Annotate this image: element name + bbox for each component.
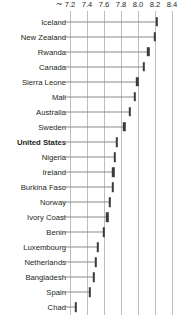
leader-line — [62, 187, 113, 188]
chart-row: Australia — [0, 104, 179, 119]
leader-line — [62, 247, 98, 248]
chart-row: Ivory Coast — [0, 210, 179, 225]
data-marker — [136, 77, 138, 87]
category-label: Burkina Faso — [21, 183, 66, 192]
x-tick-label: 8.0 — [133, 1, 143, 9]
data-marker — [155, 17, 157, 27]
data-marker — [88, 288, 90, 298]
chart-row: Ireland — [0, 165, 179, 180]
plot-area: IcelandNew ZealandRwandaCanadaSierra Leo… — [0, 14, 179, 315]
chart-row: Luxembourg — [0, 240, 179, 255]
data-marker — [109, 197, 111, 207]
category-label: Bangladesh — [25, 273, 66, 282]
chart-row: United States — [0, 134, 179, 149]
category-label: New Zealand — [21, 32, 66, 41]
data-marker — [93, 273, 95, 283]
x-tick-label: 7.8 — [116, 1, 126, 9]
leader-line — [62, 292, 90, 293]
leader-line — [62, 232, 104, 233]
data-marker — [128, 107, 130, 117]
data-marker — [112, 167, 114, 177]
chart-row: New Zealand — [0, 29, 179, 44]
data-marker — [133, 92, 135, 102]
chart-row: Sweden — [0, 119, 179, 134]
leader-line — [62, 66, 144, 67]
dot-plot-chart: ~ 7.27.47.67.88.08.28.4 IcelandNew Zeala… — [0, 0, 179, 315]
data-marker — [114, 152, 116, 162]
x-tick-label: 7.2 — [65, 1, 75, 9]
data-marker — [116, 137, 118, 147]
data-marker — [106, 212, 108, 222]
category-label: Luxembourg — [23, 243, 66, 252]
leader-line — [62, 81, 137, 82]
leader-line — [62, 202, 110, 203]
leader-line — [62, 217, 107, 218]
leader-line — [62, 262, 96, 263]
leader-line — [62, 277, 94, 278]
chart-row: Norway — [0, 195, 179, 210]
chart-row: Nigeria — [0, 149, 179, 164]
category-label: Sierra Leone — [22, 77, 66, 86]
chart-row: Chad — [0, 300, 179, 315]
x-tick-label: 8.4 — [167, 1, 177, 9]
leader-line — [62, 111, 130, 112]
axis-break-icon: ~ — [56, 1, 63, 9]
leader-line — [62, 21, 157, 22]
chart-row: Sierra Leone — [0, 74, 179, 89]
chart-row: Canada — [0, 59, 179, 74]
leader-line — [62, 156, 115, 157]
data-marker — [147, 47, 149, 57]
chart-row: Mali — [0, 89, 179, 104]
category-label: Ivory Coast — [27, 213, 66, 222]
leader-line — [62, 172, 113, 173]
x-tick-label: 7.6 — [99, 1, 109, 9]
data-marker — [143, 62, 145, 72]
x-tick-label: 7.4 — [82, 1, 92, 9]
x-tick-label: 8.2 — [150, 1, 160, 9]
data-marker — [94, 258, 96, 268]
chart-row: Netherlands — [0, 255, 179, 270]
data-marker — [103, 227, 105, 237]
data-marker — [75, 303, 77, 313]
chart-row: Rwanda — [0, 44, 179, 59]
chart-row: Benin — [0, 225, 179, 240]
leader-line — [62, 36, 155, 37]
data-marker — [123, 122, 125, 132]
leader-line — [62, 96, 135, 97]
leader-line — [62, 51, 148, 52]
data-marker — [97, 242, 99, 252]
leader-line — [62, 141, 117, 142]
data-marker — [154, 32, 156, 42]
x-axis-header: ~ 7.27.47.67.88.08.28.4 — [0, 0, 179, 14]
chart-row: Iceland — [0, 14, 179, 29]
chart-row: Spain — [0, 285, 179, 300]
category-label: United States — [17, 137, 66, 146]
chart-row: Bangladesh — [0, 270, 179, 285]
category-label: Netherlands — [25, 258, 66, 267]
leader-line — [62, 126, 124, 127]
chart-row: Burkina Faso — [0, 180, 179, 195]
data-marker — [111, 182, 113, 192]
